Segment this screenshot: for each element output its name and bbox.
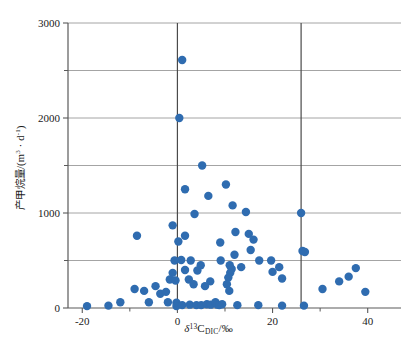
data-point — [130, 285, 138, 293]
data-point — [168, 221, 176, 229]
data-point — [268, 268, 276, 276]
data-point — [190, 210, 198, 218]
data-point — [225, 287, 233, 295]
data-point — [201, 282, 209, 290]
data-point — [216, 238, 224, 246]
data-point — [278, 274, 286, 282]
y-axis-title-sup: 3 — [14, 150, 22, 154]
data-point — [255, 256, 263, 264]
data-point — [217, 256, 225, 264]
data-point — [171, 276, 179, 284]
data-point — [177, 256, 185, 264]
data-point — [352, 264, 360, 272]
data-point — [181, 266, 189, 274]
data-point — [278, 301, 286, 309]
data-point — [204, 192, 212, 200]
data-point — [242, 208, 250, 216]
data-point — [301, 248, 309, 256]
data-point — [254, 301, 262, 309]
data-point — [175, 114, 183, 122]
data-point — [318, 285, 326, 293]
data-point — [231, 228, 239, 236]
data-point — [116, 298, 124, 306]
x-axis-title-units: /‰ — [218, 322, 232, 334]
data-point — [228, 201, 236, 209]
data-point — [178, 301, 186, 309]
data-point — [187, 256, 195, 264]
y-axis-title-suffix: ) — [15, 125, 26, 129]
data-point — [218, 300, 226, 308]
y-tick-label: 3000 — [38, 17, 61, 29]
x-axis-title-c: C — [197, 322, 205, 334]
data-point — [193, 266, 201, 274]
y-axis-title-sup2: -1 — [14, 129, 22, 135]
data-point — [237, 263, 245, 271]
data-point — [181, 185, 189, 193]
data-point — [83, 302, 91, 310]
chart-figure: 0100020003000-2002040 产甲烷量/(m3 · d-1) δ1… — [0, 0, 417, 349]
data-point — [300, 301, 308, 309]
data-point — [145, 298, 153, 306]
y-tick-label: 2000 — [38, 112, 61, 124]
y-axis-title: 产甲烷量/(m3 · d-1) — [12, 63, 27, 273]
scatter-plot: 0100020003000-2002040 — [0, 0, 417, 349]
x-axis-title: δ13CDIC/‰ — [0, 322, 417, 336]
data-point — [361, 288, 369, 296]
y-tick-label: 1000 — [38, 207, 61, 219]
data-point — [104, 301, 112, 309]
data-point — [233, 301, 241, 309]
data-point — [181, 232, 189, 240]
data-point — [267, 256, 275, 264]
x-axis-title-sub: DIC — [205, 327, 218, 336]
y-tick-label: 0 — [55, 302, 61, 314]
data-point — [178, 56, 186, 64]
data-point-group — [83, 56, 370, 310]
y-axis-title-mid: · d — [15, 135, 26, 150]
data-point — [230, 251, 238, 259]
data-point — [222, 180, 230, 188]
data-point — [164, 298, 172, 306]
data-point — [344, 272, 352, 280]
data-point — [174, 237, 182, 245]
data-point — [189, 280, 197, 288]
data-point — [162, 288, 170, 296]
data-point — [246, 246, 254, 254]
data-point — [140, 287, 148, 295]
data-point — [297, 209, 305, 217]
data-point — [151, 282, 159, 290]
y-axis-title-prefix: 产甲烷量/(m — [15, 154, 26, 210]
data-point — [133, 232, 141, 240]
data-point — [198, 161, 206, 169]
data-point — [335, 277, 343, 285]
data-point — [249, 235, 257, 243]
